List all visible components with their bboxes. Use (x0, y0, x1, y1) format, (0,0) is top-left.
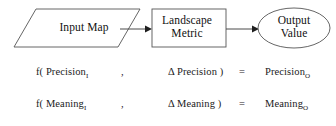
precision-argument-separator: , (121, 66, 124, 77)
precision-function-argument-input: f( PrecisionI (36, 66, 88, 77)
equation-row-meaning: f( MeaningI , Δ Meaning ) = MeaningO (0, 98, 336, 116)
meaning-function-argument-input: f( MeaningI (36, 98, 86, 109)
meaning-input-subscript: I (84, 104, 86, 112)
meaning-result: MeaningO (265, 98, 308, 109)
precision-output-subscript: O (305, 72, 310, 80)
diagram-canvas: Input Map Landscape Metric Output Value … (0, 0, 336, 126)
meaning-delta-argument: Δ Meaning ) (168, 98, 221, 109)
arrow-process-to-output (226, 26, 259, 33)
meaning-argument-separator: , (121, 98, 124, 109)
precision-delta-argument: Δ Precision ) (168, 66, 223, 77)
input-map-label: Input Map (36, 21, 132, 34)
equation-row-precision: f( PrecisionI , Δ Precision ) = Precisio… (0, 66, 336, 84)
meaning-equals-sign: = (239, 98, 245, 109)
precision-equals-sign: = (239, 66, 245, 77)
meaning-output-subscript: O (303, 104, 308, 112)
output-value-label: Output Value (258, 14, 330, 39)
landscape-metric-label: Landscape Metric (148, 14, 226, 39)
precision-result: PrecisionO (265, 66, 310, 77)
precision-input-subscript: I (86, 72, 88, 80)
